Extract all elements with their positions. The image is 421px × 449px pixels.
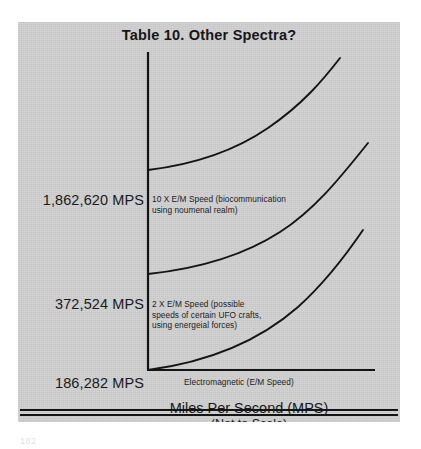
y-axis-tick-bottom: 186,282 MPS [18, 375, 144, 393]
annotation-ten-x-em-speed: 10 X E/M Speed (biocommunication using n… [152, 194, 332, 215]
y-axis-tick-top: 1,862,620 MPS [18, 192, 144, 210]
y-axis-tick-middle: 372,524 MPS [18, 296, 144, 314]
bottom-double-rule [20, 409, 398, 417]
rule-line-upper [20, 409, 398, 411]
x-axis-caption-sub: (Not to Scale) [98, 417, 400, 422]
plot-area [18, 22, 400, 422]
annotation-electromagnetic-speed: Electromagnetic (E/M Speed) [184, 377, 374, 388]
y-axis-tick-label-bottom: 186,282 MPS [55, 375, 144, 391]
rule-line-lower [20, 414, 398, 416]
y-axis-tick-label-middle: 372,524 MPS [55, 296, 144, 312]
annotation-two-x-em-speed: 2 X E/M Speed (possible speeds of certai… [152, 299, 312, 331]
page-footer-mark: 182 [20, 436, 37, 446]
y-axis-tick-label-top: 1,862,620 MPS [43, 192, 144, 208]
curve-ten-x-em [148, 58, 340, 170]
figure-panel: Table 10. Other Spectra? 1,862,620 MPS 3… [18, 22, 400, 422]
